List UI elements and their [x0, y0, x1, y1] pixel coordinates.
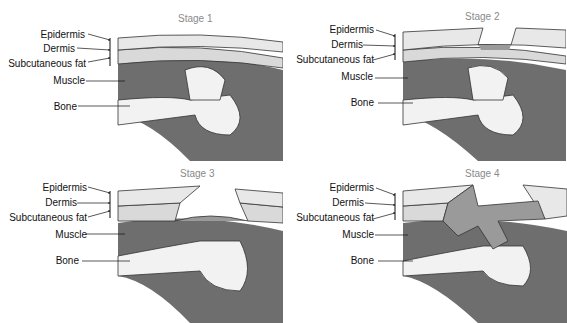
label-subcutaneous-fat: Subcutaneous fat: [9, 212, 87, 223]
label-muscle: Muscle: [55, 229, 87, 240]
label-bone: Bone: [351, 97, 374, 108]
stage-title: Stage 1: [178, 13, 212, 24]
label-bone: Bone: [56, 255, 79, 266]
stage-4-illustration: [283, 161, 567, 323]
panel-stage-1: Stage 1 Epidermis Dermis Subcutaneous fa…: [0, 0, 283, 161]
label-epidermis: Epidermis: [330, 24, 374, 35]
stage-title: Stage 2: [465, 11, 499, 22]
label-muscle: Muscle: [53, 75, 85, 86]
label-bone: Bone: [54, 101, 77, 112]
label-muscle: Muscle: [342, 229, 374, 240]
label-subcutaneous-fat: Subcutaneous fat: [8, 58, 86, 69]
label-bone: Bone: [351, 255, 374, 266]
panel-stage-2: Stage 2 Epidermis Dermis Subcutaneous fa…: [283, 0, 566, 161]
label-dermis: Dermis: [43, 43, 75, 54]
label-dermis: Dermis: [331, 39, 363, 50]
label-dermis: Dermis: [332, 197, 364, 208]
label-epidermis: Epidermis: [41, 29, 85, 40]
stage-2-illustration: [283, 0, 566, 161]
panel-stage-3: Stage 3 Epidermis Dermis Subcutaneous fa…: [0, 161, 283, 322]
label-subcutaneous-fat: Subcutaneous fat: [296, 212, 374, 223]
label-muscle: Muscle: [341, 71, 373, 82]
stage-title: Stage 3: [180, 168, 214, 179]
stage-1-illustration: [0, 0, 283, 161]
panel-stage-4: Stage 4 Epidermis Dermis Subcutaneous fa…: [283, 161, 566, 322]
label-dermis: Dermis: [45, 197, 77, 208]
label-epidermis: Epidermis: [43, 182, 87, 193]
label-epidermis: Epidermis: [330, 182, 374, 193]
label-subcutaneous-fat: Subcutaneous fat: [296, 54, 374, 65]
stage-title: Stage 4: [465, 168, 499, 179]
